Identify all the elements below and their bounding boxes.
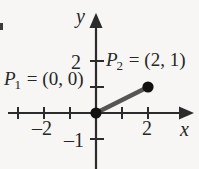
x-tick-label-2: 2 <box>142 118 152 138</box>
figure-coordinate-plane: P1 = (0, 0) P2 = (2, 1) 2 –1 –2 2 y x <box>0 0 199 169</box>
p1-variable: P <box>4 68 16 89</box>
p2-variable: P <box>106 49 118 70</box>
p2-subscript: 2 <box>117 58 125 73</box>
y-tick-label-2: 2 <box>71 52 81 72</box>
point-p2 <box>142 81 153 92</box>
point-p1 <box>90 107 101 118</box>
x-axis-label: x <box>180 119 189 139</box>
y-tick-label-neg1: –1 <box>64 130 84 150</box>
x-tick-label-neg2: –2 <box>32 118 52 138</box>
point-label-p2: P2 = (2, 1) <box>106 50 185 72</box>
p1-subscript: 1 <box>15 77 23 92</box>
p2-equation: = (2, 1) <box>124 49 185 70</box>
left-edge-mark <box>0 23 3 30</box>
y-axis-label: y <box>76 6 85 26</box>
